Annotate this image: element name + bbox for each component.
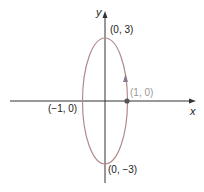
plot-svg	[0, 0, 204, 192]
start-point	[124, 98, 129, 103]
y-axis-arrow-icon	[103, 11, 108, 18]
point-label-left: (−1, 0)	[48, 103, 77, 114]
ellipse-diagram: y x (0, 3) (1, 0) (−1, 0) (0, −3)	[0, 0, 204, 192]
point-label-top: (0, 3)	[110, 24, 133, 35]
point-label-bottom: (0, −3)	[108, 164, 137, 175]
direction-arrow-icon	[123, 74, 128, 82]
y-axis-label: y	[96, 6, 102, 18]
x-axis-arrow-icon	[189, 99, 196, 104]
x-axis-label: x	[190, 105, 196, 117]
point-label-right: (1, 0)	[130, 87, 153, 98]
